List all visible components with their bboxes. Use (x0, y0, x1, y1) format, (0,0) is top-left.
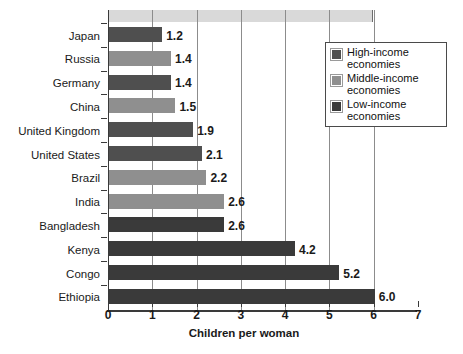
y-tick (101, 285, 107, 286)
legend-swatch-middle-icon (331, 75, 342, 86)
chart-legend: High-incomeeconomiesMiddle-incomeeconomi… (325, 42, 447, 127)
bar-value-label: 2.1 (206, 148, 223, 162)
bar-value-label: 2.6 (228, 219, 245, 233)
legend-label: Low-incomeeconomies (347, 99, 406, 122)
x-tick-5 (329, 301, 330, 307)
y-tick (101, 142, 107, 143)
bar[interactable] (109, 51, 171, 66)
bar[interactable] (109, 170, 206, 185)
x-tick-0 (108, 301, 109, 307)
legend-label: Middle-incomeeconomies (347, 73, 419, 96)
x-tick-4 (285, 301, 286, 307)
y-tick (101, 213, 107, 214)
category-label: Germany (53, 77, 100, 89)
x-tick-2 (197, 301, 198, 307)
bar-row: Kenya4.2 (108, 237, 373, 262)
bar-value-label: 6.0 (379, 290, 396, 304)
category-label: Congo (66, 268, 100, 280)
category-label: Bangladesh (39, 220, 100, 232)
category-label: Ethiopia (58, 291, 100, 303)
x-tick-label-4: 4 (273, 308, 297, 322)
bar-value-label: 2.6 (228, 195, 245, 209)
bar-value-label: 2.2 (210, 171, 227, 185)
bar-value-label: 1.4 (175, 52, 192, 66)
bar[interactable] (109, 265, 339, 280)
x-tick-7 (418, 301, 419, 307)
bar-value-label: 5.2 (343, 267, 360, 281)
bar-value-label: 1.9 (197, 124, 214, 138)
bar[interactable] (109, 27, 162, 42)
x-tick-6 (374, 301, 375, 307)
legend-swatch-high-icon (331, 49, 342, 60)
x-tick-3 (241, 301, 242, 307)
y-tick (101, 166, 107, 167)
bar-row: United States2.1 (108, 142, 373, 167)
bar-value-label: 1.5 (179, 100, 196, 114)
bar[interactable] (109, 122, 193, 137)
chart-title (120, 0, 420, 4)
bar-row: Bangladesh2.6 (108, 213, 373, 238)
x-tick-label-5: 5 (317, 308, 341, 322)
x-tick-label-6: 6 (362, 308, 386, 322)
y-tick (101, 118, 107, 119)
bar-row: India2.6 (108, 190, 373, 215)
x-tick-label-2: 2 (185, 308, 209, 322)
bar[interactable] (109, 217, 224, 232)
y-tick (101, 237, 107, 238)
x-tick-label-3: 3 (229, 308, 253, 322)
category-label: Brazil (71, 172, 100, 184)
legend-swatch-low-icon (331, 101, 342, 112)
bar[interactable] (109, 241, 295, 256)
legend-label: High-incomeeconomies (347, 47, 409, 70)
legend-item-low[interactable]: Low-incomeeconomies (331, 99, 442, 122)
y-tick (101, 23, 107, 24)
y-tick (101, 71, 107, 72)
bar-row: Brazil2.2 (108, 166, 373, 191)
y-tick (101, 94, 107, 95)
bar-value-label: 1.4 (175, 76, 192, 90)
category-label: India (75, 196, 100, 208)
category-label: Russia (65, 53, 100, 65)
bar[interactable] (109, 75, 171, 90)
legend-item-high[interactable]: High-incomeeconomies (331, 47, 442, 70)
category-label: United Kingdom (18, 125, 100, 137)
x-tick-1 (152, 301, 153, 307)
bar[interactable] (109, 98, 175, 113)
legend-item-middle[interactable]: Middle-incomeeconomies (331, 73, 442, 96)
category-label: Japan (69, 30, 100, 42)
bar[interactable] (109, 194, 224, 209)
bar-value-label: 4.2 (299, 243, 316, 257)
x-axis-title: Children per woman (108, 327, 380, 339)
y-tick (101, 261, 107, 262)
y-tick (101, 190, 107, 191)
y-tick (101, 47, 107, 48)
bar[interactable] (109, 146, 202, 161)
category-label: Kenya (67, 244, 100, 256)
bar-row: Congo5.2 (108, 261, 373, 286)
category-label: United States (31, 149, 100, 161)
x-tick-label-7: 7 (406, 308, 430, 322)
x-tick-label-1: 1 (140, 308, 164, 322)
x-tick-label-0: 0 (96, 308, 120, 322)
bar-value-label: 1.2 (166, 29, 183, 43)
bar[interactable] (109, 289, 375, 304)
category-label: China (70, 101, 100, 113)
